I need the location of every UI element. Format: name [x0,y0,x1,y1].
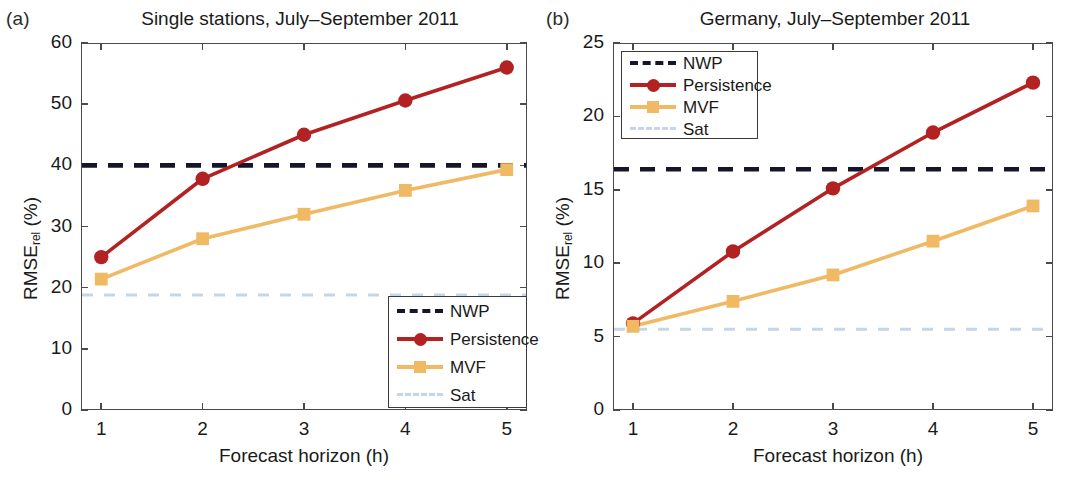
legend-label-nwp: NWP [683,55,723,72]
x-tick-b [1032,403,1034,410]
legend-label-mvf: MVF [450,359,486,376]
y-tick-b [613,189,620,191]
chart-panel-b: (b) Germany, July–September 2011 RMSErel… [540,0,1080,480]
legend-entry-nwp[interactable]: NWP [397,302,490,320]
y-tick-a [520,226,527,228]
legend-entry-mvf[interactable]: MVF [397,358,486,376]
y-tick-b [613,42,620,44]
x-tick-label-a: 2 [173,418,233,440]
legend-label-sat: Sat [450,387,476,404]
chart-panel-a: (a) Single stations, July–September 2011… [0,0,540,480]
legend-b: NWPPersistenceMVFSat [621,51,758,139]
legend-swatch-mvf-icon [630,98,676,116]
y-tick-a [81,409,88,411]
legend-entry-sat[interactable]: Sat [397,386,476,404]
x-tick-label-a: 5 [477,418,537,440]
x-tick-b [932,43,934,50]
x-tick-b [632,403,634,410]
y-tick-label-b: 0 [551,398,604,420]
panel-label-a: (a) [6,8,30,30]
legend-swatch-nwp-icon [397,302,443,320]
x-tick-label-b: 1 [603,418,663,440]
legend-marker-mvf-icon [414,361,426,373]
x-tick-b [832,403,834,410]
y-tick-label-b: 25 [551,31,604,53]
y-tick-b [613,116,620,118]
x-tick-a [405,43,407,50]
y-tick-a [81,103,88,105]
y-tick-a [520,409,527,411]
y-tick-label-a: 20 [19,276,72,298]
x-tick-label-a: 3 [274,418,334,440]
legend-swatch-persistence-icon [630,76,676,94]
y-tick-label-a: 30 [19,215,72,237]
y-tick-b [613,262,620,264]
x-tick-a [506,43,508,50]
x-axis-label-a: Forecast horizon (h) [144,445,464,467]
y-axis-label-sub-b: rel [561,232,575,245]
x-tick-a [100,403,102,410]
legend-entry-sat[interactable]: Sat [630,120,709,138]
legend-label-persistence: Persistence [683,77,772,94]
x-tick-a [202,403,204,410]
y-tick-a [81,226,88,228]
y-tick-label-b: 15 [551,178,604,200]
legend-entry-nwp[interactable]: NWP [630,54,723,72]
legend-entry-persistence[interactable]: Persistence [397,330,539,348]
y-tick-a [81,287,88,289]
y-tick-label-a: 0 [19,398,72,420]
y-tick-a [520,165,527,167]
y-tick-label-b: 5 [551,325,604,347]
y-tick-b [1046,116,1053,118]
x-tick-label-b: 5 [1003,418,1063,440]
x-tick-a [303,403,305,410]
y-axis-label-b: RMSErel (%) [552,197,574,300]
y-tick-a [520,42,527,44]
legend-marker-mvf-icon [647,101,659,113]
legend-label-sat: Sat [683,121,709,138]
x-axis-label-b: Forecast horizon (h) [678,445,998,467]
y-tick-label-a: 40 [19,153,72,175]
y-tick-b [1046,262,1053,264]
y-tick-label-b: 10 [551,251,604,273]
x-tick-label-a: 4 [375,418,435,440]
panel-label-b: (b) [546,8,570,30]
legend-swatch-nwp-icon [630,54,676,72]
x-tick-b [832,43,834,50]
y-tick-label-a: 50 [19,92,72,114]
x-tick-a [100,43,102,50]
x-tick-label-b: 4 [903,418,963,440]
panel-title-a: Single stations, July–September 2011 [100,8,500,30]
x-tick-b [1032,43,1034,50]
y-tick-a [81,348,88,350]
y-tick-b [1046,189,1053,191]
panel-title-b: Germany, July–September 2011 [635,8,1035,30]
y-tick-a [520,287,527,289]
legend-swatch-sat-icon [630,120,676,138]
x-tick-b [932,403,934,410]
y-tick-a [81,165,88,167]
x-tick-b [632,43,634,50]
legend-entry-mvf[interactable]: MVF [630,98,719,116]
y-tick-b [1046,336,1053,338]
legend-entry-persistence[interactable]: Persistence [630,76,772,94]
legend-swatch-mvf-icon [397,358,443,376]
x-tick-a [303,43,305,50]
legend-marker-persistence-icon [414,333,427,346]
x-tick-label-b: 2 [703,418,763,440]
legend-swatch-persistence-icon [397,330,443,348]
x-tick-b [732,403,734,410]
y-tick-a [520,103,527,105]
y-tick-a [81,42,88,44]
legend-swatch-sat-icon [397,386,443,404]
legend-marker-persistence-icon [647,79,660,92]
x-tick-b [732,43,734,50]
y-tick-label-a: 10 [19,337,72,359]
legend-label-nwp: NWP [450,303,490,320]
y-tick-label-a: 60 [19,31,72,53]
y-tick-b [1046,42,1053,44]
y-axis-label-unit-b: (%) [552,197,573,232]
x-tick-a [202,43,204,50]
legend-label-persistence: Persistence [450,331,539,348]
x-tick-label-b: 3 [803,418,863,440]
